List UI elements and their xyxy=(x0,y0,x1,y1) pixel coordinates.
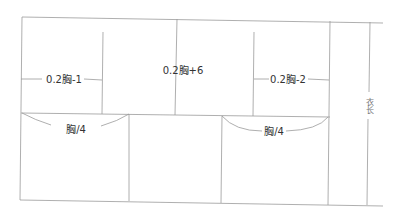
chest-line xyxy=(21,113,330,117)
left-width-label: 0.2胸-1 xyxy=(46,73,82,85)
right-width-label: 0.2胸-2 xyxy=(270,73,306,85)
left-dim-line-b xyxy=(84,79,102,80)
center-width-label: 0.2胸+6 xyxy=(163,64,204,76)
length-dim-line-bottom xyxy=(367,119,368,205)
left-armhole-curve-a xyxy=(22,113,51,125)
right-armhole-curve-b xyxy=(286,117,328,131)
center-right-divider xyxy=(253,32,254,116)
length-dim-line-top xyxy=(369,22,370,92)
left-panel-divider xyxy=(102,32,103,114)
left-armhole-curve-b xyxy=(101,114,129,126)
right-chest-label: 胸/4 xyxy=(264,125,284,137)
lower-right-divider xyxy=(221,116,222,203)
right-dim-line-b xyxy=(308,79,329,80)
length-label: 衣长 xyxy=(365,97,374,115)
top-edge-line xyxy=(22,17,383,23)
left-chest-label: 胸/4 xyxy=(66,123,86,135)
bottom-edge-line xyxy=(20,200,383,206)
right-armhole-curve-a xyxy=(222,116,262,131)
right-panel-edge xyxy=(328,21,330,205)
pattern-diagram: 0.2胸-1 0.2胸+6 0.2胸-2 胸/4 胸/4 衣长 xyxy=(0,0,399,217)
left-edge-line xyxy=(20,17,22,200)
